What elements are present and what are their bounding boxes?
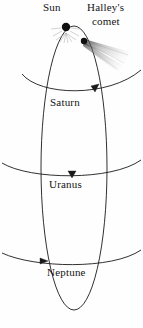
label-saturn: Saturn bbox=[50, 96, 80, 108]
label-neptune: Neptune bbox=[47, 266, 86, 278]
label-sun: Sun bbox=[43, 1, 61, 13]
label-halley-comet-line1: Halley's bbox=[87, 1, 124, 13]
saturn-arrow-icon bbox=[91, 84, 99, 92]
uranus-arrow-icon bbox=[68, 171, 76, 178]
saturn-orbit-arc bbox=[22, 70, 141, 91]
label-uranus: Uranus bbox=[49, 178, 82, 190]
halley-comet-orbit-diagram: Sun Halley's comet Saturn Uranus Neptune bbox=[0, 0, 143, 328]
orbit-diagram-canvas bbox=[0, 0, 143, 328]
sun-marker-icon bbox=[62, 23, 70, 31]
comet-nucleus-icon bbox=[81, 38, 87, 44]
label-halley-comet-line2: comet bbox=[92, 15, 120, 27]
neptune-orbit-arc bbox=[2, 250, 141, 265]
